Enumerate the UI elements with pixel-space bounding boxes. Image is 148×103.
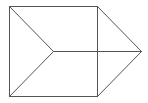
wireframe-diagram (0, 0, 148, 103)
